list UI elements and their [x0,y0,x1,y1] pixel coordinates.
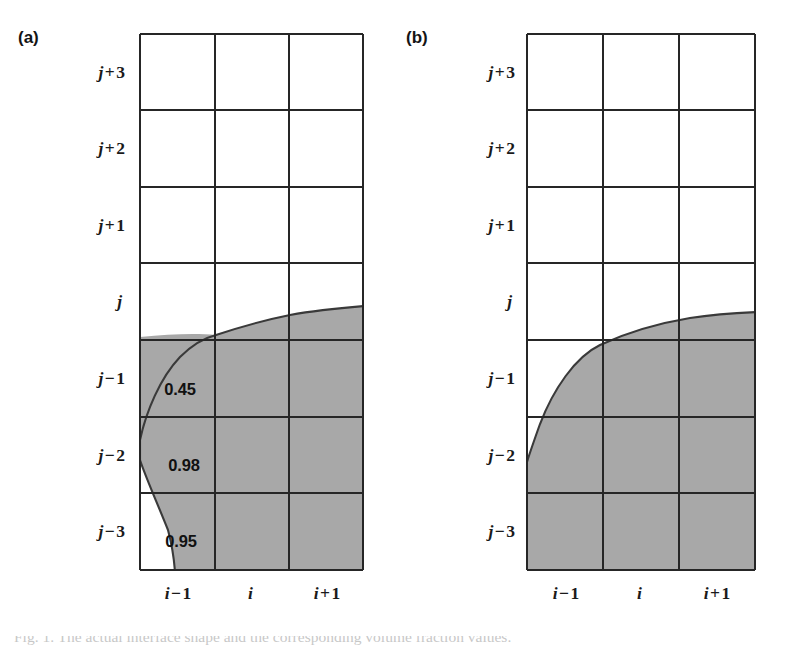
panel-b-col-label-i-plus-1: i+1 [704,583,731,604]
panel-a-row-label-j-minus-3: j−3 [30,521,125,541]
figure-caption: Fig. 1. The actual interface shape and t… [14,636,511,646]
row-op: − [493,368,506,388]
row-op [122,291,125,311]
row-num: 1 [116,368,125,388]
panel-b-tag: (b) [406,28,428,48]
row-num: 1 [506,368,515,388]
panel-a-row-label-j-minus-2: j−2 [30,445,125,465]
panel-b-col-label-i: i [637,583,645,604]
col-op [642,583,645,603]
figure-caption-strip: Fig. 1. The actual interface shape and t… [0,636,785,647]
panel-b-row-label-j-minus-1: j−1 [420,368,515,388]
panel-a-row-label-j-plus-1: j+1 [30,215,125,235]
row-op: + [493,62,506,82]
panel-b-row-label-j-plus-3: j+3 [420,62,515,82]
row-op: + [493,215,506,235]
panel-a-cell-value-1: 0.98 [168,456,199,475]
col-num: 1 [332,583,341,603]
col-num: 1 [183,583,192,603]
figure-root: (a) j+3 j+2 j+1 j j−1 j−2 j−3 i−1 i i+1 … [0,0,785,647]
row-num: 2 [506,445,515,465]
row-num: 3 [116,521,125,541]
panel-b-grid-horizontals [527,34,755,570]
row-op: + [103,215,116,235]
panel-b-row-label-j-plus-1: j+1 [420,215,515,235]
panel-b-col-label-i-minus-1: i−1 [553,583,580,604]
col-op [253,583,256,603]
col-op: + [319,583,332,603]
col-op: − [558,583,571,603]
panel-b-grid-verticals [527,34,755,570]
panel-b-row-label-j-plus-2: j+2 [420,138,515,158]
panel-a-grid-verticals [140,34,363,570]
panel-b-graphic [527,34,757,572]
row-op: − [103,368,116,388]
col-num: 1 [571,583,580,603]
row-num: 3 [506,62,515,82]
panel-a-row-label-j: j [30,291,125,311]
row-num: 1 [116,215,125,235]
panel-b-row-label-j-minus-3: j−3 [420,521,515,541]
panel-a-cell-value-2: 0.95 [165,532,196,551]
row-num: 2 [116,138,125,158]
row-op: − [103,445,116,465]
row-num: 3 [506,521,515,541]
panel-a-grid-horizontals [140,34,363,570]
panel-b-row-label-j-minus-2: j−2 [420,445,515,465]
panel-a-col-label-i-minus-1: i−1 [165,583,192,604]
row-num: 3 [116,62,125,82]
col-op: − [170,583,183,603]
row-op: + [103,138,116,158]
row-num: 2 [116,445,125,465]
row-num: 2 [506,138,515,158]
row-op: − [493,445,506,465]
row-num: 1 [506,215,515,235]
panel-a-col-label-i-plus-1: i+1 [314,583,341,604]
panel-b-shaded-region [527,312,757,572]
row-op: − [493,521,506,541]
panel-b-row-label-j: j [420,291,515,311]
row-op: + [103,62,116,82]
row-op [512,291,515,311]
figure-vector-layer [0,0,785,647]
panel-a-graphic [140,34,365,572]
row-op: + [493,138,506,158]
panel-a-col-label-i: i [248,583,256,604]
panel-a-row-label-j-minus-1: j−1 [30,368,125,388]
panel-b-interface-curve [527,312,757,462]
col-op: + [709,583,722,603]
row-op: − [103,521,116,541]
col-num: 1 [722,583,731,603]
panel-a-cell-value-0: 0.45 [164,380,195,399]
panel-a-tag: (a) [18,28,39,48]
panel-a-row-label-j-plus-3: j+3 [30,62,125,82]
panel-a-row-label-j-plus-2: j+2 [30,138,125,158]
